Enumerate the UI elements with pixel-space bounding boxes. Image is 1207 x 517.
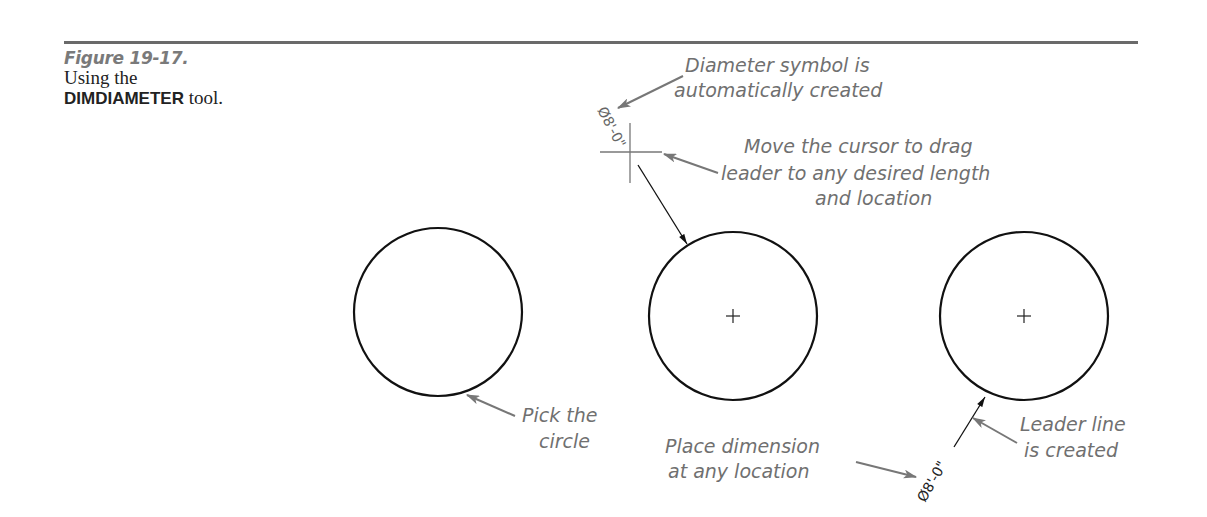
svg-text:Diameter symbol is: Diameter symbol is bbox=[685, 54, 870, 76]
callout-diameter-symbol: Diameter symbol is automatically created bbox=[618, 54, 883, 108]
circle-dragging bbox=[638, 165, 817, 400]
svg-text:Pick the: Pick the bbox=[522, 404, 597, 426]
svg-text:Place dimension: Place dimension bbox=[665, 435, 820, 457]
center-mark-icon bbox=[726, 309, 740, 323]
dragging-dimension-text: Ø8'-0" bbox=[594, 104, 629, 151]
svg-text:automatically created: automatically created bbox=[674, 79, 883, 101]
svg-text:is created: is created bbox=[1024, 439, 1119, 461]
svg-text:and location: and location bbox=[815, 187, 932, 209]
svg-text:Move the cursor to drag: Move the cursor to drag bbox=[744, 135, 973, 157]
circle-pick bbox=[354, 228, 522, 396]
dragging-leader-line bbox=[638, 165, 687, 244]
svg-text:circle: circle bbox=[539, 430, 590, 452]
svg-text:leader to any desired length: leader to any desired length bbox=[721, 162, 990, 184]
placed-dimension-text: Ø8'-0" bbox=[914, 458, 950, 504]
dimdiameter-diagram: Ø8'-0" Ø8'-0" Diameter symbol is automat… bbox=[0, 0, 1207, 517]
svg-text:at any location: at any location bbox=[668, 460, 810, 482]
callout-place-dimension: Place dimension at any location bbox=[665, 435, 916, 482]
svg-text:Leader line: Leader line bbox=[1020, 413, 1126, 435]
callout-move-cursor: Move the cursor to drag leader to any de… bbox=[664, 135, 990, 209]
center-mark-icon bbox=[1017, 309, 1031, 323]
callout-pick-circle: Pick the circle bbox=[467, 395, 597, 452]
callout-leader-line: Leader line is created bbox=[973, 413, 1126, 461]
